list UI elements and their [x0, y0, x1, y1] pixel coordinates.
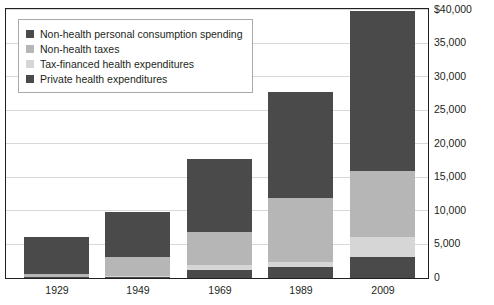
y-axis-label: 15,000 — [434, 171, 466, 182]
bar-segment — [187, 270, 252, 278]
legend-item-label: Non-health personal consumption spending — [40, 28, 243, 40]
bar-segment — [24, 237, 89, 274]
y-axis-label: 10,000 — [434, 205, 466, 216]
legend-item: Private health expenditures — [26, 71, 243, 86]
legend-item-label: Non-health taxes — [40, 43, 119, 55]
legend-item: Tax-financed health expenditures — [26, 56, 243, 71]
y-axis-label: $40,000 — [434, 4, 472, 15]
bar-segment — [350, 11, 415, 170]
y-axis-label: 0 — [434, 272, 440, 283]
bar-segment — [268, 267, 333, 278]
y-axis-label: 20,000 — [434, 138, 466, 149]
legend-item: Non-health personal consumption spending — [26, 26, 243, 41]
bar-segment — [187, 159, 252, 232]
bar-1929 — [24, 237, 89, 278]
bar-segment — [350, 237, 415, 257]
x-axis: 19291949196919892009 — [5, 283, 429, 303]
bar-segment — [24, 277, 89, 278]
bar-segment — [105, 277, 170, 278]
x-axis-label: 1949 — [106, 283, 171, 297]
legend-item-label: Private health expenditures — [40, 73, 167, 85]
bar-segment — [105, 257, 170, 276]
bar-1989 — [268, 92, 333, 278]
bar-segment — [268, 92, 333, 197]
bar-segment — [187, 232, 252, 266]
bar-1969 — [187, 159, 252, 278]
y-axis-label: 30,000 — [434, 71, 466, 82]
bar-1949 — [105, 212, 170, 278]
x-axis-label: 1969 — [188, 283, 253, 297]
legend-swatch-icon — [26, 45, 34, 53]
x-axis-label: 1929 — [25, 283, 90, 297]
bar-segment — [268, 198, 333, 262]
x-axis-label: 2009 — [351, 283, 416, 297]
legend-item: Non-health taxes — [26, 41, 243, 56]
legend-swatch-icon — [26, 30, 34, 38]
stacked-bar-chart: $40,00035,00030,00025,00020,00015,00010,… — [0, 0, 494, 305]
legend-swatch-icon — [26, 60, 34, 68]
legend-swatch-icon — [26, 75, 34, 83]
y-axis-label: 25,000 — [434, 104, 466, 115]
y-axis-label: 5,000 — [434, 238, 460, 249]
y-axis-label: 35,000 — [434, 37, 466, 48]
y-axis: $40,00035,00030,00025,00020,00015,00010,… — [434, 0, 494, 305]
legend-item-label: Tax-financed health expenditures — [40, 58, 194, 70]
bar-2009 — [350, 11, 415, 278]
bar-segment — [350, 171, 415, 237]
chart-legend: Non-health personal consumption spending… — [18, 19, 253, 93]
x-axis-label: 1989 — [269, 283, 334, 297]
bar-segment — [350, 257, 415, 278]
bar-segment — [105, 212, 170, 257]
